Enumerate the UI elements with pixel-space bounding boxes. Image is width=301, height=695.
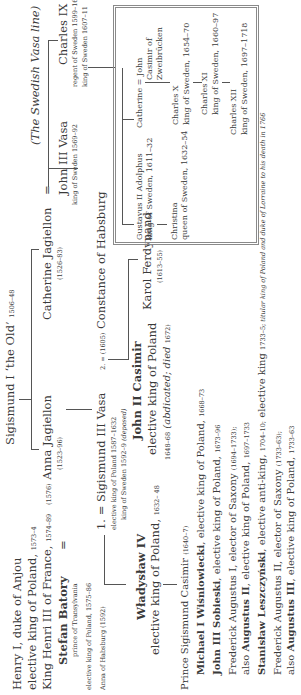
catherine-box-drop — [122, 119, 134, 120]
charles-ix: Charles IX — [58, 4, 70, 65]
charles-x-title: king of Sweden, 1654–70 — [183, 23, 191, 125]
anna-connector — [31, 449, 39, 450]
elected-king-augustus2-line2: also Augustus II, elective king of Polan… — [241, 422, 251, 675]
elected-king-augustus2-line1: Frederick Augustus I, elector of Saxony … — [228, 427, 238, 675]
catherine-connector — [31, 249, 39, 250]
elected-king-sobieski: John III Sobieski, elective king of Pola… — [212, 425, 222, 675]
john-casimir-note: 1648–68 (abdicated; died 1672) — [162, 324, 172, 460]
wladyslaw-drop — [104, 584, 126, 585]
prince-sigismund-casimir: Prince Sigismund Casimir (1640–7) — [180, 526, 190, 690]
anna-jagiellon: (1576) Anna Jagiellon — [42, 395, 54, 505]
catherine-jagiellon: Catherine Jagiellon — [42, 207, 54, 320]
john-casimir-zweibrucken-3: Zweibrücken — [156, 27, 164, 80]
charles-xii: Charles XII — [230, 89, 238, 135]
charles-x: Charles X — [172, 85, 180, 125]
gustavus-ii-adolphus: Gustavus II Adolphus — [136, 153, 144, 240]
prince-sigismund-drop — [163, 584, 177, 585]
sigismund3-first-wife-link — [104, 535, 105, 585]
children-bar — [31, 250, 32, 450]
john-ii-casimir: John II Casimir — [132, 341, 144, 440]
catherine-john3-link — [48, 169, 49, 187]
sigismund3-line2: king of Sweden 1592–9 (deposed) — [121, 409, 128, 520]
john-casimir-title: elective king of Poland — [147, 323, 159, 455]
charles-ix-title1: regent of Sweden 1599–1607 — [72, 0, 79, 87]
wladyslaw-title: elective king of Poland, 1632– 48 — [150, 485, 162, 655]
constance-of-habsburg: 2. = (1605) Constance of Habsburg — [96, 192, 108, 371]
charles-xii-title: king of Sweden, 1697–1718 — [241, 23, 249, 135]
elected-king-michael: Michael I Wiśniowiecki, elective king of… — [196, 389, 206, 675]
charles-xi-title: king of Sweden, 1660–97 — [212, 13, 220, 115]
wladyslaw-iv: Władysław IV — [136, 534, 148, 620]
anna-dates: (1523–96) — [57, 437, 64, 470]
constance-children-bar — [128, 260, 129, 360]
henry-name: Henry I, duke of Anjou — [12, 558, 24, 690]
elected-king-augustus3-line1: Frederick Augustus II, elector of Saxony… — [273, 431, 283, 675]
anna-of-habsburg: Anna of Habsburg (1592) — [100, 606, 107, 690]
swedish-vasa-header: (The Swedish Vasa line) — [30, 6, 42, 145]
stefan-batory: Stefan Batory — [58, 576, 70, 665]
christina-drop — [157, 224, 167, 225]
constance-drop — [108, 359, 128, 360]
john-casimir-zweibrucken-2: Casimir of — [146, 38, 154, 80]
stefan-title1: prince of Transylvania — [72, 583, 79, 657]
vasa-sibling-bar — [48, 41, 49, 169]
genealogy-diagram: Sigismund I ‘the Old’ 1506–48 Henry I, d… — [0, 0, 301, 695]
catherine-zweibrucken: Catherine = John — [136, 58, 144, 128]
sigismund3: 1. = Sigismund III Vasa — [96, 393, 108, 530]
catherine-dates: (1526–83) — [57, 247, 64, 280]
sigismund3-line1: elective king of Poland 1587–1632 — [111, 417, 118, 530]
john-iii-title: king of Sweden 1569–92 — [72, 124, 79, 205]
elected-king-augustus3-line2: also Augustus III, elective king of Pola… — [286, 426, 296, 675]
root-connector — [19, 399, 31, 400]
christina-title: queen of Sweden, 1632–54 — [181, 131, 189, 240]
root-person: Sigismund I ‘the Old’ 1506–48 — [5, 290, 17, 445]
box-children-bar — [122, 68, 123, 225]
charles-ix-title2: king of Sweden 1607–11 — [82, 6, 89, 87]
anna-to-sigismund3 — [66, 409, 92, 410]
charles12-drop — [222, 82, 230, 83]
gustavus-title: king of Sweden, 1611–32 — [146, 138, 154, 240]
stefan-title2: elective king of Poland, 1575–86 — [86, 583, 93, 690]
charles10-drop — [145, 82, 170, 83]
stefan-eq: = — [58, 540, 70, 550]
henry-line3: King Henri III of France, 1574–89 — [42, 514, 54, 690]
christina: Christina — [171, 203, 179, 240]
karol-drop — [128, 259, 138, 260]
karol-dates: (1613–55) — [157, 250, 164, 283]
john-iii-vasa: John III Vasa — [58, 121, 70, 195]
charles-xi: Charles XI — [201, 72, 209, 115]
charles9-children-drop — [88, 67, 116, 68]
gustavus-drop — [122, 224, 134, 225]
henry-line2: elective king of Poland, 1573–4 — [27, 526, 39, 690]
